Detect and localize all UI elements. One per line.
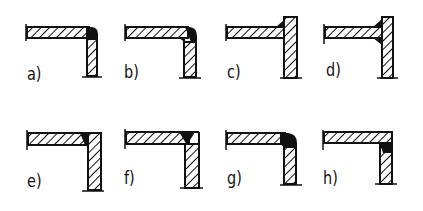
figure-a: a): [0, 0, 105, 105]
figure-d: d): [313, 0, 418, 105]
corner-joint-g-drawing: [210, 105, 316, 211]
corner-joint-a-drawing: [0, 0, 105, 105]
corner-joint-d-drawing: [313, 0, 418, 105]
figure-c: c): [210, 0, 315, 105]
figure-label-e: e): [27, 173, 42, 190]
corner-joint-e-drawing: [0, 105, 106, 211]
figure-e: e): [0, 105, 105, 210]
figure-label-h: h): [323, 170, 338, 187]
figure-label-a: a): [27, 66, 42, 83]
corner-joint-f-drawing: [105, 105, 211, 211]
figure-g: g): [210, 105, 315, 210]
figure-b: b): [105, 0, 210, 105]
corner-joint-h-drawing: [313, 105, 419, 211]
corner-joint-b-drawing: [105, 0, 210, 105]
figure-label-d: d): [326, 62, 341, 79]
figure-label-g: g): [227, 170, 242, 187]
figure-f: f): [105, 105, 210, 210]
corner-joint-c-drawing: [210, 0, 315, 105]
figure-label-c: c): [227, 64, 241, 81]
figure-label-f: f): [124, 170, 135, 187]
figure-label-b: b): [124, 64, 139, 81]
figure-h: h): [313, 105, 418, 210]
